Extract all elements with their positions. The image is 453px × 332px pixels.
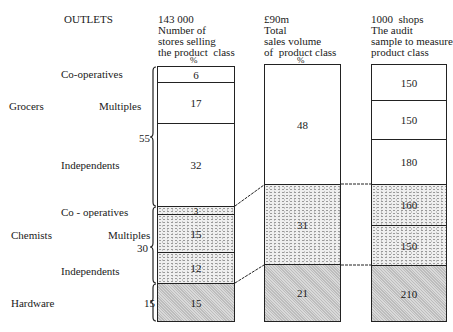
audit-grocers-independents-segment: 180 — [372, 140, 446, 185]
outlets-header: OUTLETS — [64, 14, 113, 25]
value-label: 180 — [401, 156, 418, 168]
value-label: 31 — [297, 219, 308, 231]
chemists-brace — [150, 207, 156, 283]
value-label: 210 — [401, 288, 418, 300]
stores-unit-label: % — [190, 55, 198, 66]
chemists-multiples-label: Multiples — [108, 230, 150, 241]
sales-chemists-segment: 31 — [265, 185, 340, 265]
chemists-hardware-connector — [235, 265, 264, 283]
value-label: 32 — [191, 159, 202, 171]
grocers-coop-label: Co-operatives — [61, 69, 123, 80]
stores-column-header: 143 000 Number of stores selling the pro… — [158, 14, 235, 58]
stores-chemists-independents-segment: 12 — [158, 253, 234, 284]
chemists-total-label: 30 — [137, 243, 148, 254]
grocers-independents-label: Independents — [61, 160, 120, 171]
chemists-group-label: Chemists — [11, 230, 52, 241]
value-label: 15 — [191, 297, 202, 309]
value-label: 3 — [194, 207, 199, 215]
value-label: 150 — [401, 240, 418, 252]
chemists-coop-label: Co - operatives — [61, 207, 128, 218]
grocers-multiples-label: Multiples — [99, 101, 141, 112]
audit-column-header: 1000 shops The audit sample to measure p… — [371, 14, 453, 58]
hardware-total-label: 15 — [144, 298, 155, 309]
sales-column: 48 31 21 — [264, 64, 341, 322]
grocers-chemists-connector — [235, 185, 264, 206]
audit-grocers-multiples-segment: 150 — [372, 101, 446, 140]
stores-chemists-multiples-segment: 15 — [158, 215, 234, 253]
value-label: 150 — [401, 114, 418, 126]
value-label: 21 — [297, 287, 308, 299]
value-label: 6 — [193, 69, 199, 81]
value-label: 17 — [191, 97, 202, 109]
sales-column-header: £90m Total sales volume of product class — [264, 14, 336, 58]
sales-hardware-segment: 21 — [265, 265, 340, 321]
value-label: 12 — [191, 262, 202, 274]
grocers-group-label: Grocers — [9, 101, 44, 112]
audit-chemists-independents-segment: 150 — [372, 226, 446, 266]
stores-grocers-coop-segment: 6 — [158, 67, 234, 83]
grocers-total-label: 55 — [139, 133, 150, 144]
stores-grocers-multiples-segment: 17 — [158, 83, 234, 124]
stores-column: 6 17 32 3 15 12 15 — [157, 66, 235, 322]
sales-grocers-segment: 48 — [265, 65, 340, 185]
stores-chemists-coop-segment: 3 — [158, 207, 234, 215]
hardware-group-label: Hardware — [11, 298, 54, 309]
audit-grocers-coop-segment: 150 — [372, 65, 446, 101]
value-label: 150 — [401, 77, 418, 89]
audit-column: 150 150 180 160 150 210 — [371, 64, 447, 322]
stores-hardware-segment: 15 — [158, 284, 234, 321]
chemists-independents-label: Independents — [61, 266, 120, 277]
grocers-brace — [150, 67, 156, 206]
value-label: 48 — [297, 119, 308, 131]
audit-chemists-coop-multiples-segment: 160 — [372, 185, 446, 226]
audit-hardware-segment: 210 — [372, 266, 446, 321]
value-label: 160 — [401, 199, 418, 211]
value-label: 15 — [191, 228, 202, 240]
stores-grocers-independents-segment: 32 — [158, 124, 234, 207]
